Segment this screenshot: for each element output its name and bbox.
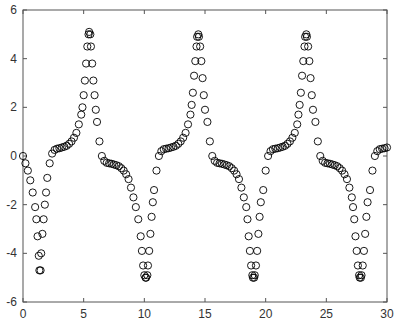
chart-container: 051015202530-6-4-20246 (0, 0, 398, 323)
data-point-marker (78, 111, 85, 118)
data-point-marker (46, 160, 53, 167)
data-point-marker (79, 104, 86, 111)
data-point-marker (93, 118, 100, 125)
data-point-marker (188, 101, 195, 108)
data-point-marker (360, 247, 367, 254)
data-point-marker (149, 199, 156, 206)
data-point-marker (96, 138, 103, 145)
y-tick-label: -6 (6, 295, 17, 309)
data-point-marker (281, 142, 288, 149)
data-point-marker (349, 204, 356, 211)
data-point-marker (206, 138, 213, 145)
data-point-marker (75, 121, 82, 128)
data-point-marker (130, 194, 137, 201)
data-point-marker (63, 142, 70, 149)
plot-frame (23, 10, 387, 302)
data-point-marker (252, 262, 259, 269)
data-point-marker (346, 184, 353, 191)
data-point-marker (245, 233, 252, 240)
data-point-marker (81, 77, 88, 84)
data-point-marker (91, 92, 98, 99)
data-points (19, 28, 390, 281)
data-point-marker (244, 216, 251, 223)
data-point-marker (238, 184, 245, 191)
y-tick-label: 4 (10, 52, 17, 66)
data-point-marker (44, 174, 51, 181)
data-point-marker (312, 118, 319, 125)
data-point-marker (90, 77, 97, 84)
data-point-marker (307, 75, 314, 82)
data-point-marker (256, 213, 263, 220)
data-point-marker (190, 72, 197, 79)
data-point-marker (204, 118, 211, 125)
data-point-marker (260, 186, 267, 193)
y-tick-label: 2 (10, 100, 17, 114)
data-point-marker (262, 167, 269, 174)
x-tick-label: 15 (198, 307, 212, 321)
data-point-marker (257, 199, 264, 206)
data-point-marker (353, 247, 360, 254)
data-point-marker (189, 89, 196, 96)
data-point-marker (127, 184, 134, 191)
data-point-marker (42, 189, 49, 196)
data-point-marker (369, 167, 376, 174)
x-tick-label: 25 (320, 307, 334, 321)
data-point-marker (32, 204, 39, 211)
data-point-marker (148, 213, 155, 220)
data-point-marker (135, 216, 142, 223)
data-point-marker (187, 111, 194, 118)
data-point-marker (364, 199, 371, 206)
data-point-marker (348, 194, 355, 201)
data-point-marker (352, 233, 359, 240)
data-point-marker (184, 121, 191, 128)
data-point-marker (334, 163, 341, 170)
y-tick-label: 0 (10, 149, 17, 163)
scatter-plot: 051015202530-6-4-20246 (0, 0, 398, 323)
y-tick-label: 6 (10, 3, 17, 17)
data-point-marker (138, 247, 145, 254)
data-point-marker (24, 167, 31, 174)
data-point-marker (144, 262, 151, 269)
data-point-marker (147, 230, 154, 237)
data-point-marker (87, 31, 94, 38)
x-tick-label: 0 (20, 307, 27, 321)
data-point-marker (254, 247, 261, 254)
data-point-marker (295, 111, 302, 118)
data-point-marker (199, 75, 206, 82)
data-point-marker (298, 72, 305, 79)
data-point-marker (243, 204, 250, 211)
data-point-marker (172, 142, 179, 149)
data-point-marker (297, 89, 304, 96)
data-point-marker (153, 167, 160, 174)
x-tick-label: 20 (259, 307, 273, 321)
data-point-marker (137, 233, 144, 240)
data-point-marker (366, 186, 373, 193)
data-point-marker (40, 216, 47, 223)
data-point-marker (27, 177, 34, 184)
data-point-marker (351, 216, 358, 223)
data-point-marker (29, 189, 36, 196)
data-point-marker (314, 138, 321, 145)
data-point-marker (362, 230, 369, 237)
data-point-marker (80, 92, 87, 99)
data-point-marker (294, 121, 301, 128)
data-point-marker (92, 106, 99, 113)
data-point-marker (308, 92, 315, 99)
data-point-marker (363, 213, 370, 220)
data-point-marker (150, 186, 157, 193)
x-tick-label: 10 (138, 307, 152, 321)
data-point-marker (359, 262, 366, 269)
data-point-marker (246, 247, 253, 254)
data-point-marker (201, 106, 208, 113)
x-tick-label: 30 (380, 307, 394, 321)
data-point-marker (309, 106, 316, 113)
data-point-marker (115, 163, 122, 170)
data-point-marker (33, 216, 40, 223)
y-tick-label: -2 (6, 198, 17, 212)
data-point-marker (226, 163, 233, 170)
x-tick-label: 5 (80, 307, 87, 321)
data-point-marker (296, 101, 303, 108)
data-point-marker (132, 204, 139, 211)
data-point-marker (255, 230, 262, 237)
data-point-marker (41, 201, 48, 208)
